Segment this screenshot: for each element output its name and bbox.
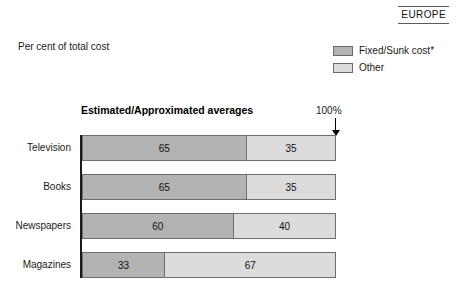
table-row: 65 35 <box>82 135 337 161</box>
bar-segment-fixed-sunk-cost: 65 <box>82 174 247 200</box>
bar-value-label: 40 <box>279 221 290 232</box>
legend-swatch-fixed-sunk-cost <box>333 46 353 56</box>
category-label: Books <box>43 174 71 200</box>
bar-value-label: 67 <box>245 260 256 271</box>
legend-swatch-other <box>333 63 353 73</box>
bar-value-label: 60 <box>152 221 163 232</box>
bar-segment-other: 35 <box>247 174 336 200</box>
region-badge: EUROPE <box>398 6 449 24</box>
legend-item-other: Other <box>333 60 434 75</box>
chart-legend: Fixed/Sunk cost* Other <box>333 43 434 77</box>
bar-segment-fixed-sunk-cost: 65 <box>82 135 247 161</box>
category-axis-labels: Television Books Newspapers Magazines <box>0 135 71 278</box>
chart-subtitle: Per cent of total cost <box>18 41 109 53</box>
bar-segment-fixed-sunk-cost: 60 <box>82 213 235 239</box>
bar-segment-other: 40 <box>234 213 336 239</box>
chart-title: Estimated/Approximated averages <box>81 104 253 116</box>
bar-value-label: 35 <box>285 143 296 154</box>
category-label: Newspapers <box>15 213 71 239</box>
category-label: Magazines <box>23 252 71 278</box>
category-label: Television <box>27 135 71 161</box>
bar-segment-other: 35 <box>247 135 336 161</box>
table-row: 65 35 <box>82 174 337 200</box>
total-callout-label: 100% <box>316 105 342 116</box>
bar-segment-fixed-sunk-cost: 33 <box>82 252 166 278</box>
bar-value-label: 65 <box>159 182 170 193</box>
bar-segment-other: 67 <box>165 252 336 278</box>
bar-value-label: 33 <box>118 260 129 271</box>
bars-container: 65 35 65 35 60 40 <box>82 135 337 278</box>
table-row: 60 40 <box>82 213 337 239</box>
legend-item-fixed-sunk-cost: Fixed/Sunk cost* <box>333 43 434 58</box>
legend-label-fixed-sunk-cost: Fixed/Sunk cost* <box>359 45 434 56</box>
plot-area: 65 35 65 35 60 40 <box>80 135 336 278</box>
bar-value-label: 35 <box>285 182 296 193</box>
bar-value-label: 65 <box>159 143 170 154</box>
total-callout: 100% <box>316 105 360 137</box>
legend-label-other: Other <box>359 62 384 73</box>
table-row: 33 67 <box>82 252 337 278</box>
chart-figure: EUROPE Per cent of total cost Fixed/Sunk… <box>0 0 458 290</box>
